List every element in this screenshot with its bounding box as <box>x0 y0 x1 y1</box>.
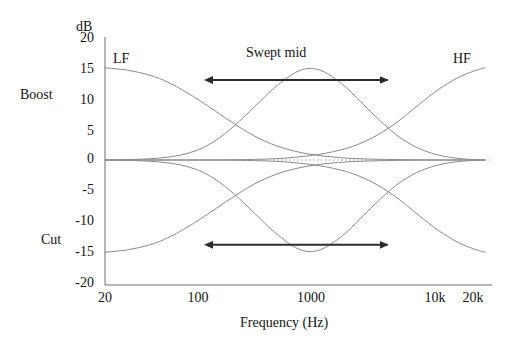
curve-mid-boost <box>105 68 485 160</box>
swept-mid-annotation-label: Swept mid <box>246 46 306 60</box>
y-tick-minus-10: -10 <box>60 214 94 228</box>
y-tick-minus-5: -5 <box>60 183 94 197</box>
curve-hf-boost <box>105 68 485 160</box>
lf-curve-label: LF <box>113 52 129 66</box>
x-tick-10k: 10k <box>417 291 453 305</box>
curve-mid-cut <box>105 160 485 252</box>
y-tick-minus-20: -20 <box>60 276 94 290</box>
boost-label: Boost <box>20 88 53 102</box>
hf-curve-label: HF <box>453 52 471 66</box>
curve-lf-cut <box>105 160 485 252</box>
y-tick-0: 0 <box>60 152 94 166</box>
x-tick-1000: 1000 <box>289 291 333 305</box>
x-axis-title: Frequency (Hz) <box>240 316 328 330</box>
curve-hf-cut <box>105 160 485 252</box>
y-tick-20: 20 <box>60 31 94 45</box>
cut-label: Cut <box>41 233 61 247</box>
y-tick-15: 15 <box>60 62 94 76</box>
swept-mid-range-arrows <box>212 80 387 245</box>
y-tick-minus-15: -15 <box>60 245 94 259</box>
x-tick-20k: 20k <box>455 291 491 305</box>
x-tick-100: 100 <box>181 291 215 305</box>
plot-axes <box>105 37 492 285</box>
y-tick-10: 10 <box>60 93 94 107</box>
y-tick-5: 5 <box>60 124 94 138</box>
x-tick-20: 20 <box>90 291 120 305</box>
eq-curve-figure: dB 20 15 10 5 0 -5 -10 -15 -20 Boost Cut… <box>0 0 522 347</box>
curve-lf-boost <box>105 68 485 160</box>
